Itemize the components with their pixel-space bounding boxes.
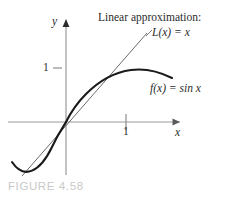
linear-approximation-note: Linear approximation:	[98, 12, 201, 24]
y-axis-label: y	[52, 16, 57, 28]
figure-caption: FIGURE 4.58	[8, 180, 84, 192]
sine-curve	[12, 69, 172, 171]
figure-container: Linear approximation: L(x) = x f(x) = si…	[0, 0, 225, 204]
curve-equation-label: f(x) = sin x	[150, 83, 201, 95]
y-axis-arrowhead	[63, 19, 70, 27]
x-axis-arrowhead	[173, 119, 181, 126]
y-axis-tick-label-1: 1	[43, 62, 49, 74]
x-axis-tick-label-1: 1	[123, 126, 129, 138]
line-equation-label: L(x) = x	[152, 27, 190, 39]
linear-approximation-line	[22, 33, 147, 176]
plot-canvas	[0, 0, 225, 204]
x-axis-label: x	[175, 127, 180, 139]
